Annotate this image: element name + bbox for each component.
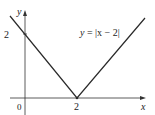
x-axis-label: x bbox=[140, 101, 146, 112]
y-axis-label: y bbox=[16, 6, 22, 17]
origin-label: 0 bbox=[17, 102, 22, 112]
equation-rest: = |x − 2| bbox=[84, 27, 119, 38]
x-axis-arrow-icon bbox=[140, 96, 146, 100]
y-tick-label-2: 2 bbox=[4, 29, 9, 40]
function-curve bbox=[10, 16, 145, 98]
vertex-point bbox=[76, 97, 79, 100]
y-axis-arrow-icon bbox=[23, 10, 27, 16]
graph-figure: y x 0 2 2 y = |x − 2| bbox=[0, 0, 155, 115]
x-tick-label-2: 2 bbox=[74, 101, 79, 112]
equation-label: y = |x − 2| bbox=[79, 27, 120, 38]
